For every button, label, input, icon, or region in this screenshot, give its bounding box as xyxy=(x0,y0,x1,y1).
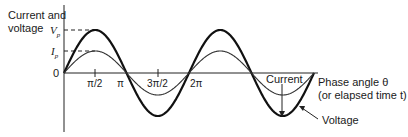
zero-label: 0 xyxy=(53,67,59,79)
ip-label: Ip xyxy=(51,45,58,62)
y-axis-label-line2: voltage xyxy=(8,22,43,34)
x-axis-label-line2: (or elapsed time t) xyxy=(318,89,407,101)
xtick-3pi-half: 3π/2 xyxy=(147,78,168,90)
x-axis-label-line1: Phase angle θ xyxy=(318,76,388,88)
current-label: Current xyxy=(266,73,303,85)
voltage-arrow xyxy=(302,108,318,119)
vp-label: Vp xyxy=(50,24,60,41)
voltage-arrowhead xyxy=(299,106,305,111)
xtick-pi-half: π/2 xyxy=(87,78,102,90)
vp-symbol: V xyxy=(50,24,57,36)
xtick-pi: π xyxy=(117,78,124,90)
vp-subscript: p xyxy=(57,31,61,39)
y-axis-label-line1: Current and xyxy=(8,9,66,21)
xtick-2pi: 2π xyxy=(190,78,202,90)
ip-subscript: p xyxy=(55,52,59,60)
voltage-label: Voltage xyxy=(322,114,359,126)
